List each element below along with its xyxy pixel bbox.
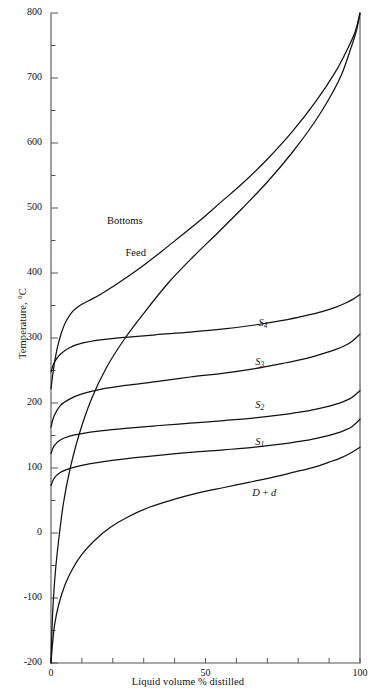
chart-plot — [0, 0, 376, 698]
y-tick-label: 200 — [4, 396, 42, 407]
figure: Temperature, °C Liquid volume % distille… — [0, 0, 376, 698]
y-tick-label: 400 — [4, 266, 42, 277]
y-tick-label: 100 — [4, 461, 42, 472]
y-tick-label: 700 — [4, 71, 42, 82]
x-tick-label: 50 — [186, 667, 226, 678]
x-tick-label: 0 — [31, 667, 71, 678]
curve-s4 — [51, 294, 360, 371]
curve-label-s3: S3 — [255, 356, 264, 369]
y-tick-label: 500 — [4, 201, 42, 212]
y-tick-label: 300 — [4, 331, 42, 342]
y-tick-label: 0 — [4, 526, 42, 537]
curve-label-s2: S2 — [255, 399, 264, 412]
curve-label-d-d: D + d — [252, 487, 276, 498]
y-tick-label: 800 — [4, 6, 42, 17]
curve-d-d — [51, 447, 360, 663]
curve-label-s4: S4 — [258, 317, 267, 330]
x-tick-label: 100 — [340, 667, 376, 678]
curve-s3 — [51, 334, 360, 427]
y-tick-label: -200 — [4, 656, 42, 667]
curve-feed — [51, 13, 360, 663]
curve-label-feed: Feed — [126, 247, 146, 258]
curve-label-bottoms: Bottoms — [107, 215, 143, 226]
curve-s2 — [51, 391, 360, 454]
y-tick-label: 600 — [4, 136, 42, 147]
y-tick-label: -100 — [4, 591, 42, 602]
curve-label-s1: S1 — [255, 436, 264, 449]
curve-s1 — [51, 419, 360, 485]
y-axis-title: Temperature, °C — [17, 264, 28, 384]
curve-bottoms — [51, 13, 360, 389]
